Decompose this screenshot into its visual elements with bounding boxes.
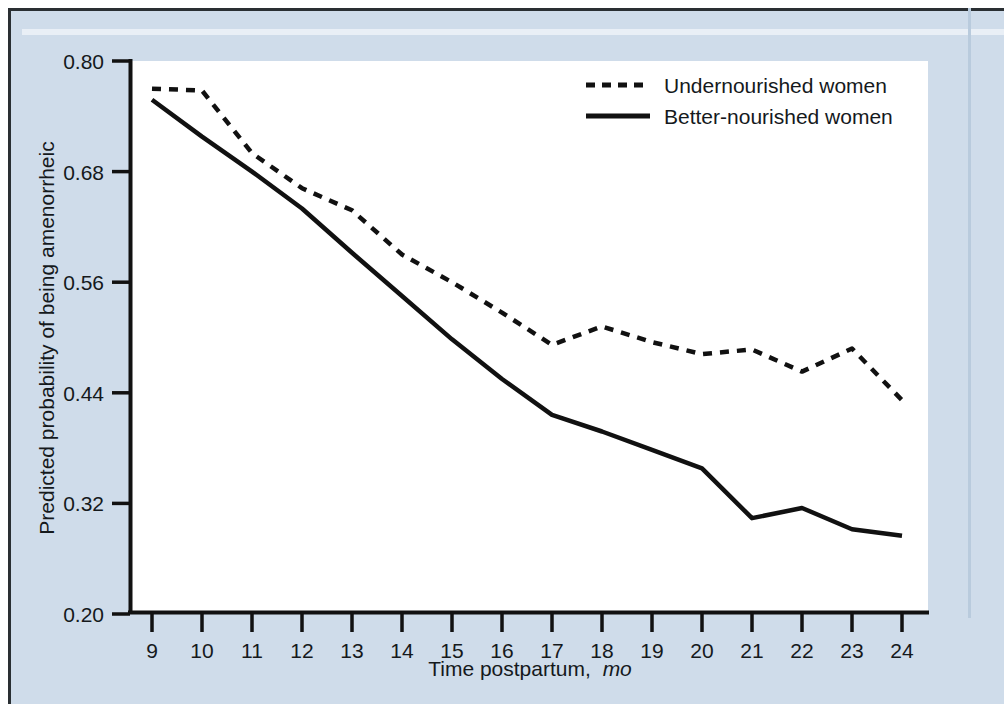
y-tick-label: 0.32: [63, 492, 104, 515]
x-axis-title-unit: mo: [603, 657, 632, 680]
x-tick-label: 10: [190, 639, 213, 662]
legend-label-better-nourished: Better-nourished women: [664, 105, 893, 128]
y-tick-label: 0.68: [63, 161, 104, 184]
y-tick-label: 0.44: [63, 382, 104, 405]
x-tick-label: 23: [840, 639, 863, 662]
x-tick-label: 24: [890, 639, 914, 662]
x-tick-label: 13: [340, 639, 363, 662]
x-tick-label: 9: [146, 639, 158, 662]
x-tick-label: 22: [790, 639, 813, 662]
x-axis-ticks: 9101112131415161718192021222324: [146, 613, 914, 662]
x-tick-label: 12: [290, 639, 313, 662]
x-tick-label: 20: [690, 639, 713, 662]
y-axis-ticks: 0.800.680.560.440.320.20: [63, 50, 130, 626]
legend-label-undernourished: Undernourished women: [664, 74, 887, 97]
x-tick-label: 21: [740, 639, 763, 662]
x-tick-label: 14: [390, 639, 414, 662]
x-tick-label: 19: [640, 639, 663, 662]
figure-container: 0.800.680.560.440.320.20 910111213141516…: [0, 0, 1004, 704]
plot-area: [129, 61, 928, 614]
line-chart: 0.800.680.560.440.320.20 910111213141516…: [0, 0, 1004, 704]
x-axis-title-main: Time postpartum,: [428, 657, 591, 680]
y-tick-label: 0.20: [63, 603, 104, 626]
y-tick-label: 0.56: [63, 271, 104, 294]
y-tick-label: 0.80: [63, 50, 104, 73]
x-tick-label: 11: [241, 639, 263, 662]
y-axis-title: Predicted probability of being amenorrhe…: [35, 141, 58, 534]
